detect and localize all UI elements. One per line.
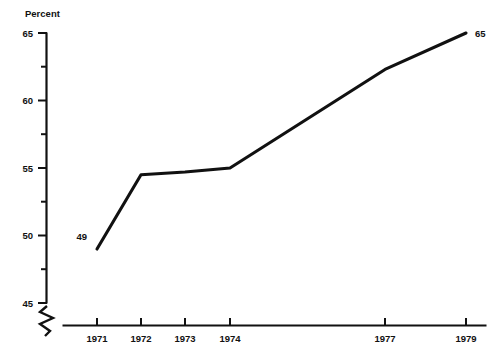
x-tick-label-1979: 1979	[455, 333, 476, 344]
y-axis-title: Percent	[25, 8, 61, 19]
chart-container: Percent 65 60 55 50 45 1971 1972	[0, 0, 497, 358]
y-tick-label-45: 45	[22, 298, 33, 309]
data-series-line	[97, 33, 466, 249]
x-tick-label-1973: 1973	[174, 333, 195, 344]
data-label-start: 49	[76, 231, 87, 242]
x-tick-label-1972: 1972	[130, 333, 151, 344]
y-axis-break-icon	[40, 306, 53, 336]
percent-line-chart: Percent 65 60 55 50 45 1971 1972	[0, 0, 497, 358]
y-tick-label-55: 55	[22, 163, 33, 174]
y-tick-label-50: 50	[22, 230, 33, 241]
data-label-end: 65	[475, 28, 486, 39]
x-tick-label-1971: 1971	[86, 333, 108, 344]
y-tick-label-65: 65	[22, 28, 33, 39]
y-tick-label-60: 60	[22, 95, 33, 106]
x-tick-label-1977: 1977	[374, 333, 395, 344]
x-tick-label-1974: 1974	[219, 333, 241, 344]
